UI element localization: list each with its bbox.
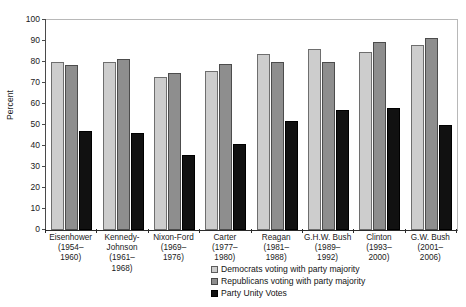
bar[interactable]	[131, 133, 144, 230]
bar[interactable]	[387, 108, 400, 230]
x-axis-label-line: Reagan	[252, 233, 301, 243]
bar[interactable]	[205, 71, 218, 230]
x-axis-label-line: (1993–	[354, 243, 403, 253]
y-tick-label: 70	[31, 77, 40, 87]
legend-swatch-icon	[211, 266, 218, 273]
y-tick-label: 90	[31, 35, 40, 45]
bar[interactable]	[359, 52, 372, 231]
legend-label: Democrats voting with party majority	[221, 264, 360, 275]
bar-group	[149, 20, 200, 230]
plot-area: 0102030405060708090100	[45, 19, 458, 231]
x-axis-label-line: Eisenhower	[46, 233, 95, 243]
bar[interactable]	[233, 144, 246, 230]
x-axis-label: Kennedy-Johnson(1961–1968)	[96, 233, 147, 274]
legend-item[interactable]: Republicans voting with party majority	[211, 276, 365, 287]
y-tick-label: 40	[31, 140, 40, 150]
legend-item[interactable]: Party Unity Votes	[211, 288, 365, 299]
y-tick-label: 50	[31, 119, 40, 129]
bar[interactable]	[373, 42, 386, 230]
y-axis-title: Percent	[5, 73, 15, 137]
x-axis-label-line: (1961–	[97, 253, 146, 263]
y-tick-label: 100	[26, 14, 40, 24]
bar[interactable]	[168, 73, 181, 231]
x-axis-label-line: 1976)	[149, 253, 198, 263]
bar[interactable]	[79, 131, 92, 230]
y-tick-label: 80	[31, 56, 40, 66]
y-tick-label: 60	[31, 98, 40, 108]
x-axis-label-line: 1968)	[97, 264, 146, 274]
bar-group	[200, 20, 251, 230]
x-axis-label-line: (1969–	[149, 243, 198, 253]
legend-swatch-icon	[211, 290, 218, 297]
bar[interactable]	[51, 62, 64, 230]
x-axis-label: G.W. Bush(2001–2006)	[405, 233, 456, 274]
x-axis-label-line: (1954–	[46, 243, 95, 253]
bar-group	[303, 20, 354, 230]
y-tick-label: 30	[31, 161, 40, 171]
x-axis-label-line: G.W. Bush	[406, 233, 455, 243]
x-axis-label-line: Johnson	[97, 243, 146, 253]
y-tick-label: 20	[31, 182, 40, 192]
legend-swatch-icon	[211, 278, 218, 285]
x-axis-label-line: 1992)	[303, 253, 352, 263]
x-axis-label-line: 1960)	[46, 253, 95, 263]
x-axis-label-line: 2000)	[354, 253, 403, 263]
legend-label: Republicans voting with party majority	[221, 276, 365, 287]
bar-group	[252, 20, 303, 230]
x-axis-label-line: Clinton	[354, 233, 403, 243]
x-axis-label-line: 2006)	[406, 253, 455, 263]
x-axis-label-line: (1977–	[200, 243, 249, 253]
bar[interactable]	[271, 62, 284, 230]
x-axis-label-line: 1988)	[252, 253, 301, 263]
bar[interactable]	[65, 65, 78, 230]
bar[interactable]	[336, 110, 349, 230]
legend-item[interactable]: Democrats voting with party majority	[211, 264, 365, 275]
chart-legend: Democrats voting with party majorityRepu…	[211, 264, 365, 299]
bar-group	[97, 20, 148, 230]
x-axis-label: Eisenhower(1954–1960)	[45, 233, 96, 274]
bar[interactable]	[322, 62, 335, 230]
legend-label: Party Unity Votes	[221, 288, 287, 299]
bar-group	[354, 20, 405, 230]
bar[interactable]	[411, 45, 424, 230]
x-axis-label-line: G.H.W. Bush	[303, 233, 352, 243]
bar[interactable]	[182, 155, 195, 230]
x-axis-label-line: (2001–	[406, 243, 455, 253]
x-axis-label-line: Kennedy-	[97, 233, 146, 243]
bar-group	[46, 20, 97, 230]
bar[interactable]	[308, 49, 321, 230]
bar[interactable]	[285, 121, 298, 230]
bar[interactable]	[117, 59, 130, 230]
x-axis-label-line: Nixon-Ford	[149, 233, 198, 243]
y-tick-label: 10	[31, 203, 40, 213]
x-axis-label-line: Carter	[200, 233, 249, 243]
x-axis-label: Nixon-Ford(1969–1976)	[148, 233, 199, 274]
bar[interactable]	[219, 64, 232, 230]
bar[interactable]	[154, 77, 167, 230]
x-tick-mark	[456, 229, 457, 233]
bar[interactable]	[439, 125, 452, 230]
bar[interactable]	[257, 54, 270, 230]
bar-chart: Percent 0102030405060708090100 Eisenhowe…	[0, 0, 466, 307]
x-axis-label-line: (1989–	[303, 243, 352, 253]
bar-groups	[46, 20, 457, 230]
bar-group	[406, 20, 457, 230]
x-axis-label-line: (1981–	[252, 243, 301, 253]
x-axis-label-line: 1980)	[200, 253, 249, 263]
y-tick-label: 0	[35, 224, 40, 234]
bar[interactable]	[103, 62, 116, 230]
bar[interactable]	[425, 38, 438, 230]
